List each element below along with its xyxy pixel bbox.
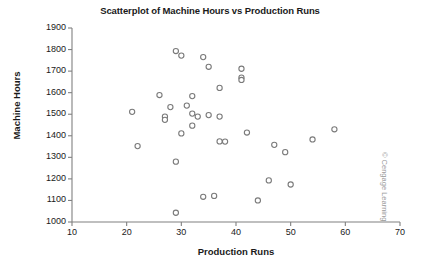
y-tick-label: 1500	[34, 108, 66, 118]
data-point	[173, 159, 178, 164]
data-point	[184, 103, 189, 108]
ticks-group	[68, 28, 400, 226]
y-tick-label: 1800	[34, 44, 66, 54]
data-point	[135, 144, 140, 149]
data-point	[239, 77, 244, 82]
data-point	[288, 182, 293, 187]
data-point	[173, 48, 178, 53]
data-point	[190, 123, 195, 128]
x-tick-label: 50	[276, 227, 306, 237]
x-tick-label: 20	[112, 227, 142, 237]
data-point	[173, 210, 178, 215]
data-point	[222, 139, 227, 144]
data-point	[206, 112, 211, 117]
axes-group	[72, 28, 400, 222]
data-point	[332, 127, 337, 132]
data-point	[217, 85, 222, 90]
data-point	[272, 142, 277, 147]
data-point	[310, 137, 315, 142]
data-point	[179, 131, 184, 136]
data-point	[201, 194, 206, 199]
data-point	[190, 111, 195, 116]
data-point	[217, 139, 222, 144]
scatterplot-figure: Scatterplot of Machine Hours vs Producti…	[0, 0, 438, 269]
y-tick-label: 1200	[34, 173, 66, 183]
data-points-group	[130, 48, 337, 215]
data-point	[206, 64, 211, 69]
data-point	[266, 178, 271, 183]
x-tick-label: 10	[57, 227, 87, 237]
data-point	[239, 66, 244, 71]
y-tick-label: 1900	[34, 22, 66, 32]
data-point	[201, 55, 206, 60]
data-point	[179, 53, 184, 58]
data-point	[283, 150, 288, 155]
y-tick-label: 1600	[34, 87, 66, 97]
x-tick-label: 30	[166, 227, 196, 237]
y-tick-label: 1100	[34, 194, 66, 204]
data-point	[195, 114, 200, 119]
data-point	[157, 92, 162, 97]
data-point	[255, 198, 260, 203]
data-point	[217, 114, 222, 119]
data-point	[190, 94, 195, 99]
x-tick-label: 60	[330, 227, 360, 237]
y-tick-label: 1300	[34, 151, 66, 161]
y-tick-label: 1000	[34, 216, 66, 226]
data-point	[212, 193, 217, 198]
x-tick-label: 70	[385, 227, 415, 237]
data-point	[244, 130, 249, 135]
y-tick-label: 1400	[34, 130, 66, 140]
y-tick-label: 1700	[34, 65, 66, 75]
x-tick-label: 40	[221, 227, 251, 237]
data-point	[130, 109, 135, 114]
data-point	[168, 105, 173, 110]
data-point	[162, 117, 167, 122]
